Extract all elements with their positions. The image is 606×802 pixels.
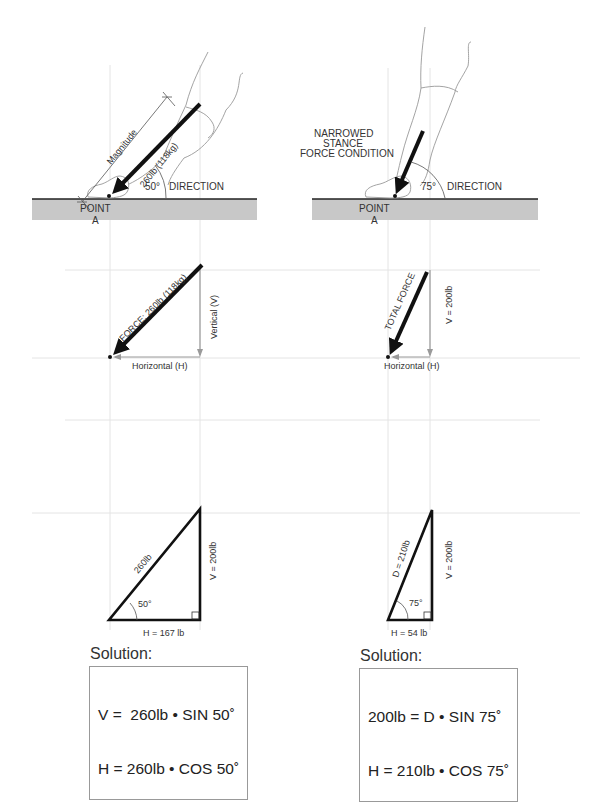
right-solution-title: Solution: — [360, 647, 422, 665]
right-solution-line1: 200lb = D • SIN 75˚ — [368, 708, 509, 726]
direction-label: DIRECTION — [447, 181, 502, 192]
left-solution-line1: V = 260lb • SIN 50˚ — [98, 706, 239, 724]
right-angle-marker — [192, 612, 199, 619]
left-vector-diagram: FORCE: 260lb (118kg) Vertical (V) Horizo… — [108, 265, 219, 371]
angle-label: 75° — [421, 181, 436, 192]
origin-dot — [386, 355, 390, 359]
point-letter: A — [92, 215, 99, 226]
ground-surface — [32, 199, 257, 220]
vertical-label: V = 200lb — [208, 542, 218, 580]
point-label: POINT — [80, 203, 111, 214]
angle-label: 75° — [409, 598, 423, 608]
right-solution-box: 200lb = D • SIN 75˚ H = 210lb • COS 75˚ — [359, 668, 518, 802]
leg-outline — [394, 27, 471, 188]
horizontal-label: H = 167 lb — [143, 628, 184, 638]
left-force-diagram: Magnitude 260lb (118kg) POINT A 50° DIRE… — [32, 52, 257, 226]
horizontal-label: Horizontal (H) — [384, 361, 440, 371]
angle-label: 50° — [145, 181, 160, 192]
force-label: FORCE: 260lb (118kg) — [117, 272, 188, 343]
force-arrow — [398, 131, 423, 189]
point-a-dot — [107, 194, 111, 198]
point-label: POINT — [359, 203, 390, 214]
left-solution-title: Solution: — [90, 645, 152, 663]
vertical-label: V = 200lb — [444, 286, 454, 324]
origin-dot — [108, 355, 112, 359]
vertical-label: V = 200lb — [444, 541, 454, 579]
right-solution-line2: H = 210lb • COS 75˚ — [368, 762, 509, 780]
hypotenuse-label: D = 210lb — [390, 539, 411, 579]
right-triangle: 75° D = 210lb V = 200lb H = 54 lb — [388, 510, 454, 638]
horizontal-label: H = 54 lb — [391, 628, 427, 638]
left-solution-box: V = 260lb • SIN 50˚ H = 260lb • COS 50˚ — [89, 666, 248, 800]
angle-arc — [397, 601, 408, 620]
right-force-diagram: NARROWED STANCE FORCE CONDITION POINT A … — [300, 27, 538, 226]
horizontal-label: Horizontal (H) — [132, 361, 188, 371]
point-letter: A — [371, 215, 378, 226]
point-a-dot — [393, 194, 397, 198]
left-triangle: 50° 260lb V = 200lb H = 167 lb — [109, 509, 218, 638]
condition-label-line3: FORCE CONDITION — [300, 148, 394, 159]
vertical-label: Vertical (V) — [209, 295, 219, 339]
angle-label: 50° — [138, 599, 152, 609]
hypotenuse-label: 260lb — [132, 552, 154, 575]
ground-surface — [312, 199, 538, 220]
left-solution-line2: H = 260lb • COS 50˚ — [98, 760, 239, 778]
angle-arc — [130, 603, 137, 620]
right-vector-diagram: TOTAL FORCE V = 200lb Horizontal (H) — [383, 270, 454, 371]
direction-label: DIRECTION — [169, 181, 224, 192]
triangle-shape — [109, 509, 200, 620]
angle-arc — [411, 162, 445, 198]
force-arrow — [116, 104, 200, 190]
